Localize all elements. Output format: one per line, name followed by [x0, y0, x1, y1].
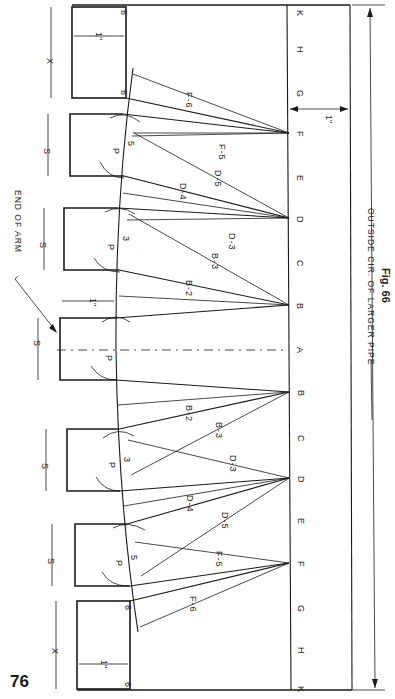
point-label-e: E — [295, 175, 305, 181]
arrow-head-icon — [49, 324, 57, 333]
label-5: 5 — [129, 555, 139, 560]
point-label-h: H — [295, 46, 305, 53]
label-d5: D-5 — [220, 512, 230, 530]
arrow-head-icon — [372, 679, 378, 688]
label-s: S — [32, 340, 42, 346]
label-x: X — [45, 58, 55, 64]
arrow-head-icon — [340, 106, 348, 112]
triangulation-line-b3 — [131, 392, 289, 475]
triangulation-line-d5 — [134, 133, 289, 218]
outside-circumference-label: OUTSIDE CIR. OF LARGER PIPE — [366, 208, 376, 365]
cross-arc — [113, 524, 145, 530]
label-6: 6 — [119, 10, 129, 15]
point-label-h: H — [296, 647, 306, 654]
tab-block-s-1 — [70, 114, 124, 176]
arc-p — [102, 572, 128, 586]
label-d3: D-3 — [227, 233, 237, 251]
triangulation-line-b2 — [119, 296, 289, 305]
triangulation-labels: F-6 F-5 D-5 D-4 D-3 B-3 B-2 B-2 B-3 D-3 … — [178, 92, 238, 613]
point-label-d: D — [295, 216, 305, 223]
label-d3: D-3 — [228, 455, 238, 473]
triangulation-line-d3 — [127, 218, 289, 220]
baseline — [287, 5, 291, 690]
figure-label: Fig. 66 — [380, 268, 392, 303]
label-1in: 1" — [88, 298, 98, 306]
triangulation-line — [120, 478, 289, 491]
point-label-g: G — [295, 90, 305, 97]
label-6: 6 — [119, 90, 129, 95]
triangulation-line — [116, 305, 289, 318]
point-label-f: F — [295, 131, 305, 137]
end-of-arm-leader — [15, 276, 55, 330]
triangulation-line-f5 — [135, 542, 289, 563]
label-s: S — [40, 463, 50, 469]
label-p: P — [114, 560, 124, 566]
tab-block-s-2 — [64, 208, 119, 270]
label-f6: F-6 — [184, 92, 194, 109]
label-3: 3 — [122, 457, 132, 462]
triangulation-line-f6 — [140, 563, 289, 627]
point-label-e: E — [296, 518, 306, 524]
triangulation-line — [119, 270, 289, 305]
tab-block-s-3 — [67, 429, 120, 491]
label-d4: D-4 — [178, 183, 188, 201]
point-label-a: A — [295, 347, 305, 353]
label-s: S — [46, 558, 56, 564]
tab-block-s-center — [60, 318, 116, 380]
label-leader — [371, 360, 372, 420]
triangulation-line — [116, 380, 289, 392]
triangulation-line — [118, 208, 289, 218]
arrow-head-icon — [367, 8, 373, 17]
triangulation-line — [126, 98, 289, 133]
point-label-d: D — [296, 476, 306, 483]
point-label-b: B — [295, 303, 305, 309]
point-label-g: G — [296, 605, 306, 612]
triangulation-line-b3 — [129, 214, 289, 305]
label-f6: F-6 — [188, 596, 198, 613]
label-5: 5 — [126, 141, 136, 146]
label-s: S — [42, 148, 52, 154]
triangulation-line — [119, 392, 289, 429]
frame-right-line — [350, 5, 352, 690]
label-d5: D-5 — [213, 170, 223, 188]
point-label-c: C — [296, 435, 306, 442]
label-p: P — [107, 462, 117, 468]
tab-block-x-top — [72, 7, 126, 98]
label-1in: 1" — [324, 115, 334, 123]
label-b2: B-2 — [184, 280, 194, 297]
point-label-k: K — [296, 686, 306, 692]
label-b3: B-3 — [214, 422, 224, 439]
label-b3: B-3 — [210, 253, 220, 270]
label-6: 6 — [123, 682, 133, 687]
point-label-b: B — [296, 390, 306, 396]
point-label-c: C — [295, 260, 305, 267]
baseline-point-labels: K H G F E D C B A B C D E F G H K — [295, 10, 306, 692]
point-label-k: K — [295, 10, 305, 16]
end-of-arm-label: END OF ARM — [13, 190, 23, 253]
triangulation-line — [132, 133, 289, 136]
arc-p — [91, 366, 116, 380]
triangulation-line-d3 — [128, 440, 289, 478]
label-p: P — [104, 355, 114, 361]
arc-p — [96, 477, 120, 491]
point-label-f: F — [296, 561, 306, 567]
label-3: 3 — [121, 236, 131, 241]
label-d4: D-4 — [185, 495, 195, 513]
triangulation-line-b2 — [118, 392, 289, 405]
label-f5: F-5 — [214, 551, 224, 568]
arrow-head-icon — [290, 106, 298, 112]
tab-block-x-bottom — [77, 601, 130, 689]
label-p: P — [111, 148, 121, 154]
label-f5: F-5 — [217, 144, 227, 161]
pattern-drawing: K H G F E D C B A B C D E F G H K F-6 F-… — [0, 0, 395, 699]
label-b2: B-2 — [184, 405, 194, 422]
label-6: 6 — [123, 605, 133, 610]
label-p: P — [106, 244, 116, 250]
label-s: S — [38, 242, 48, 248]
tab-block-s-4 — [75, 524, 130, 586]
label-x: X — [50, 648, 60, 654]
